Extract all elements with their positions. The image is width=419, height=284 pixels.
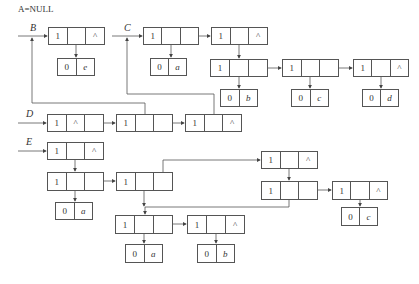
node-field: 0 [151,59,169,75]
node-field [154,115,172,131]
node-field: 1 [144,28,162,44]
list-node: 1^ [48,27,105,45]
atom-node: 0b [220,89,258,107]
node-field: 1 [262,152,281,168]
list-node: 1 [282,59,339,77]
node-field [351,182,369,199]
node-field [85,115,103,131]
node-field [299,182,317,199]
node-field [281,152,300,168]
node-field [207,216,226,233]
atom-node: 0e [57,58,95,76]
list-node: 1^ [211,27,268,45]
node-field: 0 [342,208,360,225]
list-node: 1^ [187,215,245,234]
node-field: 0 [56,203,75,219]
node-field: ^ [85,143,103,159]
node-field [372,60,390,76]
node-field [205,115,224,131]
node-field: 1 [48,173,67,190]
node-field: 1 [188,216,207,233]
node-field: 1 [48,143,67,159]
node-field: c [360,208,377,225]
node-field [281,182,300,199]
list-node: 1 [143,27,199,45]
node-field [67,173,86,190]
node-field: 1 [186,115,205,131]
node-field: 1 [283,60,302,76]
node-field: e [77,59,95,75]
list-node: 1^ [261,151,318,169]
atom-node: 0c [291,89,329,107]
node-field: 0 [363,90,381,106]
node-field: ^ [86,28,104,44]
list-node: 1 [116,114,173,132]
node-field [68,28,87,44]
node-field: ^ [299,152,317,168]
node-field: ^ [67,115,86,131]
list-node: 1^ [332,181,388,200]
node-field: c [311,90,329,106]
node-field [302,60,321,76]
list-node: 1 [210,59,268,77]
node-field [135,216,154,233]
node-field [320,60,338,76]
node-field: 1 [117,173,136,190]
node-field: 1 [354,60,372,76]
node-field [162,28,180,44]
node-field: d [381,90,398,106]
node-field: ^ [370,182,387,199]
node-field: 0 [198,245,217,262]
atom-node: 0a [125,244,163,263]
node-field: 1 [262,182,281,199]
generalized-list-diagram: A=NULL B C D E [0,0,419,284]
node-field: a [145,245,163,262]
node-field: a [75,203,93,219]
node-field [249,60,267,76]
node-field [136,173,155,190]
node-field: 0 [292,90,311,106]
list-node: 1^ [47,114,104,132]
node-field: 1 [116,216,135,233]
list-node: 1 [47,172,104,191]
node-field: ^ [249,28,267,44]
node-field: ^ [223,115,241,131]
node-field [154,173,172,190]
node-field: a [169,59,186,75]
atom-node: 0d [362,89,399,107]
node-field: 1 [49,28,68,44]
list-node: 1 [261,181,318,200]
node-field [230,60,249,76]
node-field [231,28,250,44]
node-field: 1 [333,182,351,199]
node-field [136,115,155,131]
node-field: 1 [117,115,136,131]
node-field [181,28,198,44]
node-field: b [240,90,258,106]
list-node: 1 [115,215,173,234]
list-node: 1^ [353,59,409,77]
node-field: 1 [211,60,230,76]
atom-node: 0a [150,58,187,76]
atom-node: 0b [197,244,235,263]
atom-node: 0a [55,202,93,220]
atom-node: 0c [341,207,378,226]
node-field [67,143,86,159]
node-field: 0 [126,245,145,262]
node-field: 0 [221,90,240,106]
list-node: 1^ [47,142,104,160]
node-field: 1 [212,28,231,44]
list-node: 1^ [185,114,242,132]
node-field: b [217,245,235,262]
node-field: ^ [226,216,244,233]
list-node: 1 [116,172,173,191]
node-field: 1 [48,115,67,131]
node-field [154,216,172,233]
node-field: 0 [58,59,77,75]
node-field: ^ [391,60,408,76]
node-field [85,173,103,190]
